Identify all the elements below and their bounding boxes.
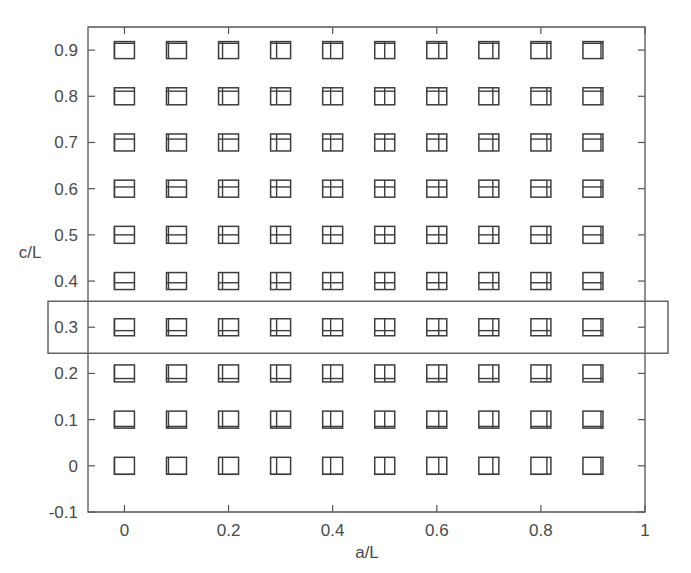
x-tick-label: 0.8 <box>529 521 553 540</box>
x-tick-label: 0 <box>120 521 129 540</box>
y-tick-label: 0.5 <box>54 226 78 245</box>
plot-background <box>0 0 691 573</box>
x-tick-label: 0.2 <box>217 521 241 540</box>
y-tick-label: 0.1 <box>54 411 78 430</box>
y-tick-label: 0.8 <box>54 87 78 106</box>
y-axis-label: c/L <box>19 243 42 262</box>
figure-container: 00.20.40.60.81 -0.100.10.20.30.40.50.60.… <box>0 0 691 573</box>
y-tick-label: -0.1 <box>49 503 78 522</box>
y-tick-label: 0.2 <box>54 364 78 383</box>
x-tick-label: 0.6 <box>425 521 449 540</box>
y-tick-label: 0.6 <box>54 180 78 199</box>
y-tick-label: 0 <box>69 457 78 476</box>
y-tick-label: 0.3 <box>54 318 78 337</box>
y-tick-label: 0.4 <box>54 272 78 291</box>
scatter-plot: 00.20.40.60.81 -0.100.10.20.30.40.50.60.… <box>0 0 691 573</box>
x-tick-label: 0.4 <box>321 521 345 540</box>
x-axis-label: a/L <box>355 543 379 562</box>
x-tick-label: 1 <box>640 521 649 540</box>
y-tick-label: 0.7 <box>54 133 78 152</box>
y-tick-label: 0.9 <box>54 41 78 60</box>
